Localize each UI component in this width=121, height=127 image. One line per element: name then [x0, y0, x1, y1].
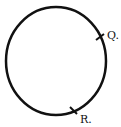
point-q-label: Q.	[107, 29, 119, 42]
circle	[6, 7, 106, 115]
circle-diagram: Q. R.	[0, 0, 121, 127]
point-r-label: R.	[80, 113, 92, 126]
